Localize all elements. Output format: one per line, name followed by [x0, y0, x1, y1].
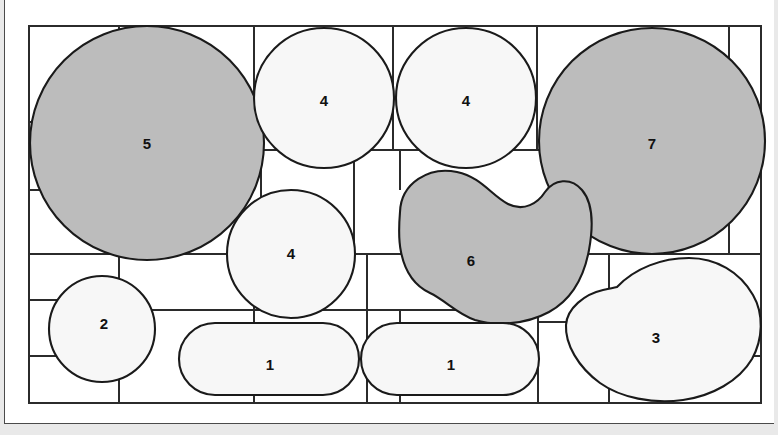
shape-label-4-middle: 4 [287, 245, 295, 262]
shape-blob-3[interactable] [566, 258, 761, 401]
shape-label-4-top-right: 4 [462, 92, 470, 109]
shape-label-5: 5 [143, 135, 151, 152]
shape-label-2: 2 [100, 315, 108, 332]
outer-page-frame: 5 4 4 7 4 6 2 1 1 3 [4, 0, 774, 424]
shape-bean-6[interactable] [399, 171, 592, 324]
shape-label-3: 3 [652, 329, 660, 346]
packing-diagram-svg [5, 0, 775, 424]
shape-label-1-left: 1 [266, 356, 274, 373]
shape-label-6: 6 [467, 252, 475, 269]
shape-label-4-top-left: 4 [320, 92, 328, 109]
shape-label-1-right: 1 [447, 356, 455, 373]
shape-label-7: 7 [648, 135, 656, 152]
figure-root: 5 4 4 7 4 6 2 1 1 3 [0, 0, 778, 435]
